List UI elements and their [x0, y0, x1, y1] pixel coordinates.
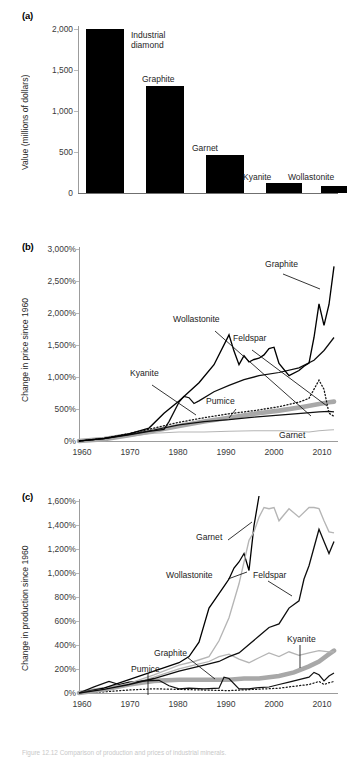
series-label-feldspar: Feldspar	[233, 334, 266, 343]
series-label-pumice: Pumice	[131, 665, 160, 674]
bar-label-industrial-diamond-line2: diamond	[131, 40, 164, 50]
series-label-graphite: Graphite	[265, 260, 298, 269]
series-label-pumice: Pumice	[206, 397, 235, 406]
leader-line-kyanite	[152, 385, 196, 415]
panel-b-line-chart: (b) Change in price since 1960 3,000% 2,…	[0, 238, 347, 483]
leader-line-pumice	[229, 409, 236, 418]
series-label-graphite: Graphite	[154, 649, 187, 658]
bar-label-kyanite: Kyanite	[243, 172, 271, 182]
panel-a-ytick-500: 500	[33, 148, 73, 156]
panel-a-plot-area	[78, 26, 338, 193]
series-label-kyanite: Kyanite	[130, 369, 159, 378]
series-label-kyanite: Kyanite	[287, 635, 316, 644]
series-label-wollastonite: Wollastonite	[166, 571, 213, 580]
bar-label-garnet: Garnet	[192, 143, 218, 153]
panel-a-letter: (a)	[22, 10, 33, 21]
bar-label-graphite: Graphite	[142, 74, 175, 84]
leader-line-wollastonite	[228, 572, 247, 579]
bar-label-industrial-diamond-line1: Industrial	[131, 30, 166, 40]
leader-line-graphite	[187, 657, 215, 679]
series-label-garnet: Garnet	[196, 533, 222, 542]
panel-a-y-axis-title: Value (millions of dollars)	[20, 42, 32, 202]
panel-c-leader-lines	[0, 483, 347, 745]
panel-a-ytick-2000: 2,000	[33, 25, 73, 33]
leader-line-feldspar	[252, 350, 327, 406]
figure-container: (a) Value (millions of dollars) 2,000 1,…	[0, 0, 347, 762]
leader-line-garnet	[228, 522, 252, 540]
panel-a-ytick-1500: 1,500	[33, 66, 73, 74]
figure-caption: Figure 12.12 Comparison of production an…	[22, 749, 332, 761]
leader-line-graphite	[283, 274, 320, 289]
panel-a-ytick-0: 0	[33, 189, 73, 197]
panel-b-leader-lines	[0, 238, 347, 483]
bar-wollastonite	[321, 186, 347, 193]
series-label-garnet: Garnet	[279, 431, 305, 440]
bar-graphite	[146, 86, 184, 193]
bar-kyanite	[266, 183, 302, 193]
panel-a-bar-chart: (a) Value (millions of dollars) 2,000 1,…	[0, 0, 347, 238]
bar-label-industrial-diamond: Industrial diamond	[131, 30, 166, 50]
panel-c-line-chart: (c) Change in production since 1960 1,60…	[0, 483, 347, 745]
series-label-feldspar: Feldspar	[253, 571, 286, 580]
leader-line-feldspar	[268, 581, 292, 596]
bar-label-wollastonite: Wollastonite	[288, 172, 334, 182]
bar-industrial-diamond	[86, 29, 124, 193]
series-label-wollastonite: Wollastonite	[173, 315, 220, 324]
bar-garnet	[206, 155, 244, 194]
panel-a-ytick-1000: 1,000	[33, 107, 73, 115]
